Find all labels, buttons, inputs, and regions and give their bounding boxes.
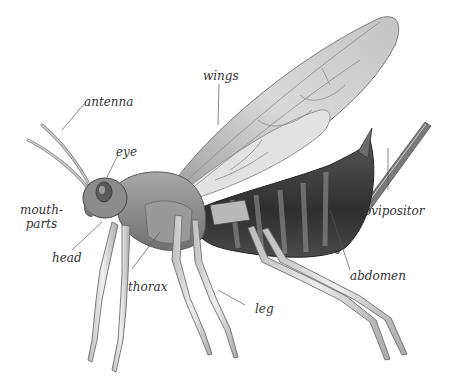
label-mouthparts-line1: mouth- [20, 204, 63, 218]
label-head: head [52, 252, 82, 264]
label-eye: eye [116, 146, 137, 158]
label-abdomen: abdomen [350, 270, 406, 282]
label-wings: wings [203, 70, 239, 82]
label-mouthparts-line2: parts [20, 218, 63, 232]
label-thorax: thorax [128, 281, 167, 293]
wasp-anatomy-diagram: antenna eye wings mouth- parts head thor… [0, 0, 449, 388]
label-mouthparts: mouth- parts [20, 204, 63, 232]
head-shape [83, 178, 127, 218]
antennae [28, 125, 92, 190]
label-leg: leg [255, 303, 274, 315]
label-ovipositor: ovipositor [364, 205, 425, 217]
label-antenna: antenna [84, 96, 133, 108]
wasp-illustration [0, 0, 449, 388]
